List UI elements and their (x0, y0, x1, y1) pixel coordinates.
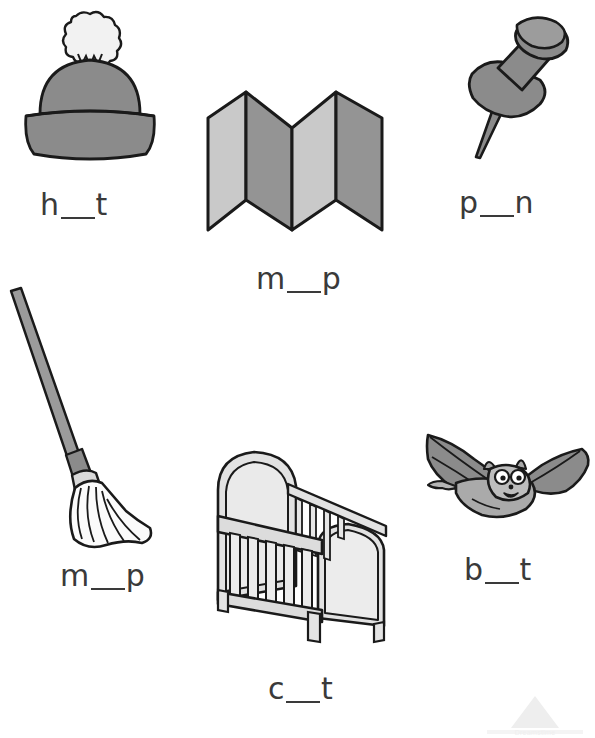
label-map: mp (256, 264, 341, 294)
worksheet-page: ht mp (0, 0, 595, 738)
label-pin-blank (480, 215, 514, 217)
label-cot-suffix: t (321, 671, 333, 706)
label-bat: bt (464, 555, 532, 585)
item-map: mp (196, 88, 396, 308)
label-mop-suffix: p (126, 558, 146, 593)
label-map-suffix: p (322, 261, 342, 296)
watermark-text: Dreamstime (481, 729, 589, 736)
push-pin-illustration (446, 12, 581, 167)
item-hat: ht (12, 8, 182, 223)
label-hat: ht (40, 190, 108, 220)
label-map-blank (287, 291, 321, 293)
cot-crib-illustration (196, 440, 402, 645)
item-pin: pn (430, 12, 595, 227)
item-cot: ct (190, 440, 410, 725)
label-mop-prefix: m (60, 558, 90, 593)
label-pin-prefix: p (459, 185, 479, 220)
label-hat-blank (61, 217, 95, 219)
label-cot-prefix: c (268, 671, 285, 706)
label-pin-suffix: n (515, 185, 535, 220)
label-map-prefix: m (256, 261, 286, 296)
knit-hat-illustration (16, 8, 156, 168)
folded-map-illustration (202, 88, 388, 243)
mop-illustration (2, 285, 162, 555)
label-bat-prefix: b (464, 552, 484, 587)
item-mop: mp (0, 285, 190, 610)
label-pin: pn (459, 188, 534, 218)
label-bat-suffix: t (520, 552, 532, 587)
label-hat-prefix: h (40, 187, 60, 222)
label-mop: mp (60, 561, 145, 591)
label-cot-blank (286, 701, 320, 703)
watermark: Dreamstime (481, 690, 589, 738)
item-bat: bt (408, 425, 595, 615)
label-cot: ct (268, 674, 333, 704)
label-bat-blank (485, 582, 519, 584)
bat-animal-illustration (412, 425, 592, 545)
label-mop-blank (91, 588, 125, 590)
triangle-logo-icon (481, 690, 589, 738)
label-hat-suffix: t (96, 187, 108, 222)
